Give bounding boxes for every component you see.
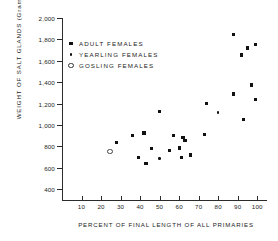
data-point (158, 157, 161, 160)
x-tick (82, 196, 83, 201)
open-circle-icon (68, 63, 73, 68)
y-tick (57, 189, 63, 190)
y-tick-label: 2,000 (0, 15, 55, 22)
data-point (232, 33, 235, 36)
data-point (150, 147, 153, 150)
y-tick (57, 82, 63, 83)
y-tick (57, 18, 63, 19)
x-tick (238, 196, 239, 201)
data-point (203, 133, 206, 136)
x-tick (199, 196, 200, 201)
legend-label: GOSLING FEMALES (79, 62, 154, 69)
y-tick-label: 1,400 (0, 79, 55, 86)
data-point (107, 149, 112, 154)
y-axis-title: WEIGHT OF SALT GLANDS (Grams) (15, 0, 22, 121)
data-point (246, 46, 249, 49)
data-point (183, 139, 186, 142)
y-tick (57, 104, 63, 105)
legend-item[interactable]: YEARLING FEMALES (63, 49, 159, 60)
x-tick (140, 196, 141, 201)
data-point (250, 83, 253, 86)
legend-marker-cell (63, 42, 79, 45)
data-point (189, 153, 192, 156)
filled-square-icon (69, 42, 72, 45)
data-point (115, 141, 118, 144)
legend-label: YEARLING FEMALES (79, 51, 159, 58)
data-point (232, 92, 235, 95)
x-tick (257, 196, 258, 201)
data-point (144, 162, 147, 165)
y-tick-label: 1,600 (0, 57, 55, 64)
y-tick-label: 1,200 (0, 100, 55, 107)
legend-marker-cell (63, 63, 79, 68)
x-tick (101, 196, 102, 201)
legend-item[interactable]: ADULT FEMALES (63, 38, 159, 49)
y-tick-label: 400 (0, 186, 55, 193)
data-point (158, 110, 161, 113)
x-tick-label: 100 (245, 203, 269, 210)
data-point (240, 53, 243, 56)
legend-label: ADULT FEMALES (79, 40, 144, 47)
data-point (131, 134, 134, 137)
x-tick (218, 196, 219, 201)
data-point (217, 111, 220, 114)
y-tick (57, 146, 63, 147)
x-axis-line (62, 200, 267, 201)
data-point (254, 43, 257, 46)
data-point (254, 98, 257, 101)
legend-item[interactable]: GOSLING FEMALES (63, 60, 159, 71)
data-point (205, 102, 208, 105)
x-tick (121, 196, 122, 201)
y-tick (57, 125, 63, 126)
y-tick-label: 600 (0, 164, 55, 171)
y-tick-label: 1,000 (0, 122, 55, 129)
data-point (142, 131, 145, 134)
y-tick-label: 1,800 (0, 36, 55, 43)
data-point (242, 118, 245, 121)
x-tick (179, 196, 180, 201)
data-point (178, 146, 181, 149)
data-point (137, 156, 140, 159)
x-axis-title: PERCENT OF FINAL LENGTH OF ALL PRIMARIES (62, 221, 270, 228)
x-tick (160, 196, 161, 201)
filled-circle-icon (70, 53, 73, 56)
chart-legend: ADULT FEMALESYEARLING FEMALESGOSLING FEM… (63, 38, 159, 71)
data-point (180, 156, 183, 159)
data-point (168, 149, 171, 152)
legend-marker-cell (63, 53, 79, 56)
y-tick (57, 168, 63, 169)
data-point (172, 134, 175, 137)
y-tick-label: 800 (0, 143, 55, 150)
scatter-plot: 2,0001,8001,6001,4001,2001,000800600400 … (0, 0, 278, 241)
